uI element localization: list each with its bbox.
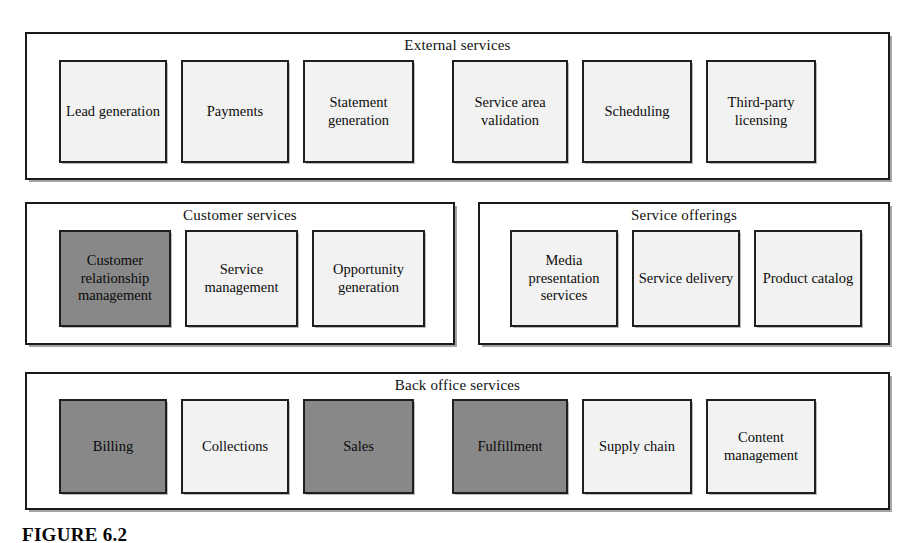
service-box-opportunity-generation[interactable]: Opportunity generation (312, 230, 425, 327)
box-gap (289, 60, 303, 163)
service-box-label: Statement generation (308, 94, 409, 129)
service-box-label: Opportunity generation (317, 261, 420, 296)
group-title-customer-services: Customer services (27, 206, 453, 225)
group-external-services: External services Lead generation Paymen… (25, 32, 890, 180)
group-back-office-services: Back office services Billing Collections… (25, 372, 890, 510)
service-box-label: Scheduling (587, 103, 687, 121)
box-gap-wide (414, 399, 452, 494)
box-gap (568, 399, 582, 494)
service-box-product-catalog[interactable]: Product catalog (754, 230, 862, 327)
service-box-supply-chain[interactable]: Supply chain (582, 399, 692, 494)
service-box-media-presentation-services[interactable]: Media presentation services (510, 230, 618, 327)
service-box-payments[interactable]: Payments (181, 60, 289, 163)
service-box-service-management[interactable]: Service management (185, 230, 298, 327)
box-gap (289, 399, 303, 494)
service-box-statement-generation[interactable]: Statement generation (303, 60, 414, 163)
service-box-label: Sales (308, 438, 409, 456)
service-box-label: Supply chain (587, 438, 687, 456)
service-box-label: Content management (711, 429, 811, 464)
box-row-back-office-services: Billing Collections Sales Fulfillment Su… (59, 399, 860, 494)
service-box-label: Service delivery (637, 270, 735, 288)
service-box-label: Service area validation (457, 94, 563, 129)
service-box-fulfillment[interactable]: Fulfillment (452, 399, 568, 494)
box-row-service-offerings: Media presentation services Service deli… (510, 230, 862, 327)
service-box-third-party-licensing[interactable]: Third-party licensing (706, 60, 816, 163)
service-box-label: Customer relationship management (64, 252, 166, 305)
box-gap (298, 230, 312, 327)
box-gap (692, 399, 706, 494)
service-box-label: Media presentation services (515, 252, 613, 305)
box-gap (618, 230, 632, 327)
service-box-label: Product catalog (759, 270, 857, 288)
service-box-service-area-validation[interactable]: Service area validation (452, 60, 568, 163)
service-box-content-management[interactable]: Content management (706, 399, 816, 494)
group-title-back-office-services: Back office services (27, 376, 888, 395)
box-row-external-services: Lead generation Payments Statement gener… (59, 60, 860, 163)
service-box-customer-relationship-management[interactable]: Customer relationship management (59, 230, 171, 327)
service-box-label: Lead generation (64, 103, 162, 121)
service-architecture-diagram: External services Lead generation Paymen… (0, 0, 922, 543)
service-box-label: Fulfillment (457, 438, 563, 456)
service-box-collections[interactable]: Collections (181, 399, 289, 494)
figure-caption: FIGURE 6.2 (22, 524, 127, 543)
box-gap (167, 399, 181, 494)
box-gap (171, 230, 185, 327)
box-gap (740, 230, 754, 327)
service-box-label: Service management (190, 261, 293, 296)
service-box-label: Collections (186, 438, 284, 456)
box-gap-wide (414, 60, 452, 163)
group-title-external-services: External services (27, 36, 888, 55)
service-box-lead-generation[interactable]: Lead generation (59, 60, 167, 163)
service-box-label: Billing (64, 438, 162, 456)
group-service-offerings: Service offerings Media presentation ser… (478, 202, 890, 345)
service-box-sales[interactable]: Sales (303, 399, 414, 494)
group-title-service-offerings: Service offerings (480, 206, 888, 225)
box-gap (692, 60, 706, 163)
service-box-scheduling[interactable]: Scheduling (582, 60, 692, 163)
service-box-label: Third-party licensing (711, 94, 811, 129)
service-box-billing[interactable]: Billing (59, 399, 167, 494)
service-box-service-delivery[interactable]: Service delivery (632, 230, 740, 327)
box-gap (167, 60, 181, 163)
box-gap (568, 60, 582, 163)
box-row-customer-services: Customer relationship management Service… (59, 230, 425, 327)
group-customer-services: Customer services Customer relationship … (25, 202, 455, 345)
service-box-label: Payments (186, 103, 284, 121)
